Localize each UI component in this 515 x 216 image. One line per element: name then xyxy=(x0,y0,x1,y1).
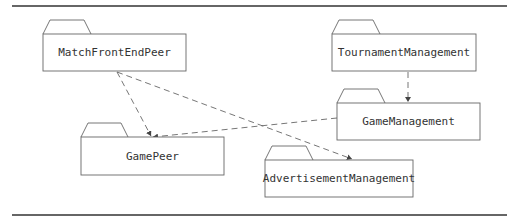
package-label: AdvertisementManagement xyxy=(263,172,415,185)
dependency-gamemanagement-gamepeer xyxy=(153,118,337,137)
package-gamemanagement[interactable]: GameManagement xyxy=(337,89,480,140)
package-label: GameManagement xyxy=(362,115,455,128)
package-advertisementmanagement[interactable]: AdvertisementManagement xyxy=(263,146,415,197)
package-tab xyxy=(332,20,380,34)
package-tab xyxy=(81,123,128,137)
package-matchfrontendpeer[interactable]: MatchFrontEndPeer xyxy=(43,20,186,71)
package-tab xyxy=(265,146,313,160)
package-tournamentmanagement[interactable]: TournamentManagement xyxy=(332,20,476,71)
package-diagram: MatchFrontEndPeer TournamentManagement G… xyxy=(0,0,515,216)
package-label: TournamentManagement xyxy=(338,46,470,59)
package-tab xyxy=(43,20,91,34)
package-gamepeer[interactable]: GamePeer xyxy=(81,123,224,175)
package-tab xyxy=(337,89,385,103)
package-label: MatchFrontEndPeer xyxy=(58,46,171,59)
package-label: GamePeer xyxy=(126,150,179,163)
